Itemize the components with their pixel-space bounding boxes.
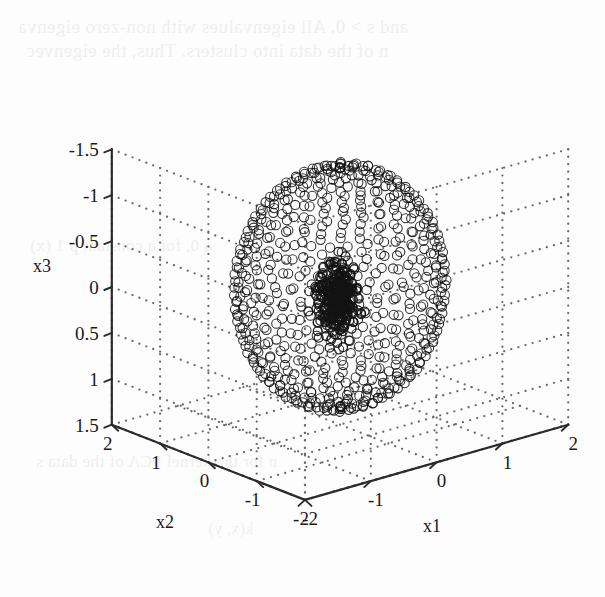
shell-marker [271,283,280,292]
xtick-label-0: -2 [302,508,318,529]
ytick-label-2: 0 [200,470,210,491]
plot-canvas: 1.510.50-0.5-1-1.5-2-1012-2-1012x3x2x1 [0,0,605,597]
shell-marker [278,314,287,323]
shell-marker [243,286,252,295]
axis-label-x2: x2 [156,512,174,532]
shell-marker [278,209,287,218]
shell-marker [280,360,289,369]
shell-marker [372,312,381,321]
shell-marker [351,373,360,382]
shell-marker [358,322,367,331]
shell-marker [262,325,271,334]
shell-marker [416,302,425,311]
shell-marker [414,286,423,295]
shell-marker [410,208,419,217]
ytick-label-1: -1 [245,489,261,510]
shell-marker [431,263,440,272]
shell-marker [272,319,281,328]
shell-marker [418,320,427,329]
shell-marker [392,355,401,364]
shell-marker [327,183,336,192]
shell-marker [359,262,368,271]
shell-marker [327,349,336,358]
figure-page: and s > 0. All eigenvalues with non-zero… [0,0,605,597]
xtick-label-4: 2 [568,433,578,454]
ztick-label-0: 1.5 [75,415,99,436]
xtick-label-1: -1 [368,489,384,510]
shell-marker [300,201,309,210]
shell-marker [337,197,346,206]
shell-marker [384,367,393,376]
shell-marker [299,253,308,262]
shell-marker [379,308,388,317]
shell-marker [272,288,281,297]
shell-marker [293,330,302,339]
shell-marker [379,237,388,246]
shell-marker [384,280,393,289]
shell-marker [355,234,364,243]
shell-marker [414,334,423,343]
shell-marker [266,260,275,269]
shell-marker [365,278,374,287]
shell-marker [254,280,263,289]
shell-marker [265,377,274,386]
shell-marker [275,184,284,193]
shell-marker [306,257,315,266]
shell-marker [374,235,383,244]
shell-marker [438,247,447,256]
shell-marker [394,265,403,274]
shell-marker [316,235,325,244]
shell-marker [307,242,316,251]
shell-marker [264,296,273,305]
shell-marker [380,339,389,348]
shell-marker [256,280,265,289]
shell-marker [296,344,305,353]
shell-marker [381,282,390,291]
shell-marker [374,340,383,349]
axis-label-x3: x3 [33,256,51,276]
axis-label-x1: x1 [423,516,441,536]
shell-marker [295,272,304,281]
ztick-label-5: -1 [83,185,99,206]
shell-marker [422,272,431,281]
shell-marker [272,335,281,344]
scatter3-figure: 1.510.50-0.5-1-1.5-2-1012-2-1012x3x2x1 [0,0,605,597]
shell-marker [289,284,298,293]
shell-marker [252,252,261,261]
shell-marker [376,250,385,259]
shell-marker [406,346,415,355]
shell-marker [405,202,414,211]
ztick-label-3: 0 [89,277,99,298]
ztick-label-6: -1.5 [69,139,99,160]
shell-marker [407,214,416,223]
shell-marker [310,352,319,361]
shell-marker [319,374,328,383]
shell-marker [336,234,345,243]
ztick-label-4: -0.5 [69,231,99,252]
shell-marker [302,326,311,335]
shell-marker [319,209,328,218]
shell-marker [291,342,300,351]
shell-marker [377,263,386,272]
shell-marker [260,323,269,332]
ztick-label-2: 0.5 [75,323,99,344]
shell-marker [286,329,295,338]
shell-marker [420,231,429,240]
shell-marker [405,299,414,308]
shell-marker [338,220,347,229]
shell-marker [260,339,269,348]
shell-marker [283,204,292,213]
shell-marker [376,222,385,231]
shell-marker [282,255,291,264]
xtick-label-2: 0 [437,470,447,491]
shell-marker [298,237,307,246]
ytick-label-4: 2 [103,433,113,454]
xtick-label-3: 1 [503,452,513,473]
shell-marker [371,269,380,278]
ytick-label-3: 1 [151,452,161,473]
shell-marker [343,242,352,251]
axis-text: 1.510.50-0.5-1-1.5-2-1012-2-1012x3x2x1 [33,139,578,536]
shell-marker [317,250,326,259]
shell-marker [267,274,276,283]
shell-marker [264,265,273,274]
